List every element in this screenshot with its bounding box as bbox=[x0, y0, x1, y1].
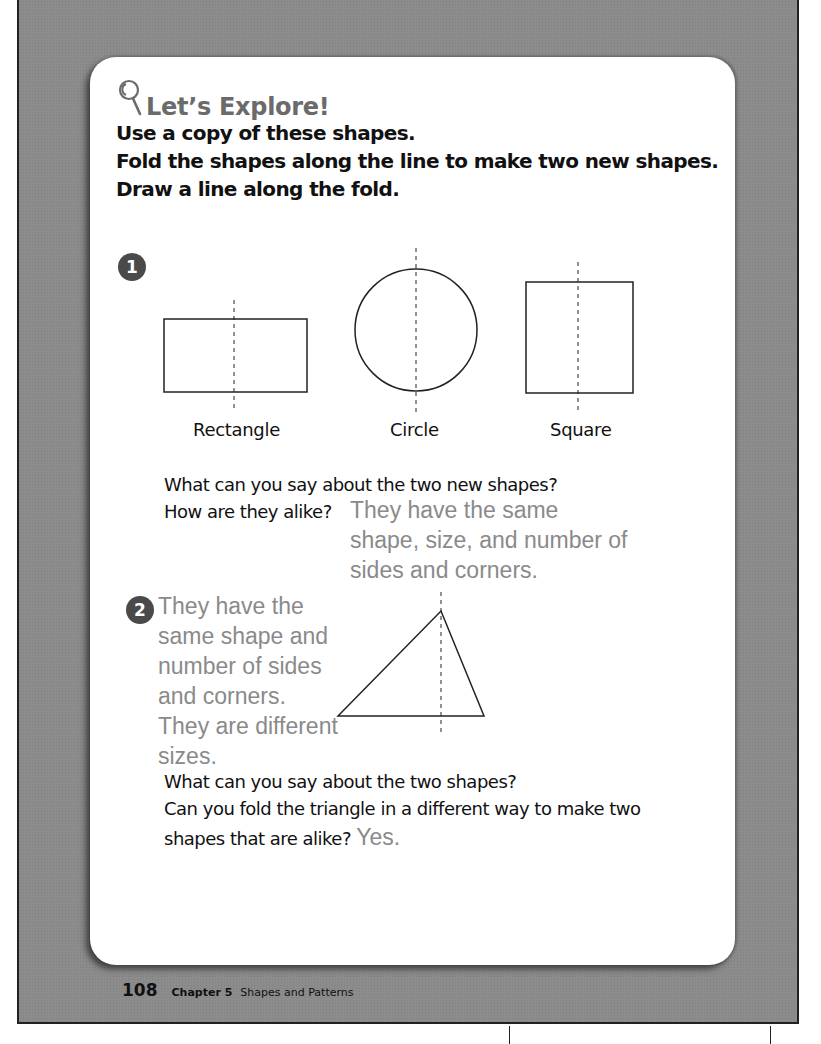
answer-line: number of sides bbox=[158, 651, 338, 681]
problem-1-question-2: How are they alike? bbox=[164, 498, 332, 525]
answer-line: sizes. bbox=[158, 741, 338, 771]
problem-2-question-1: What can you say about the two shapes? bbox=[164, 768, 516, 795]
trim-mark bbox=[509, 1026, 510, 1044]
circle-label: Circle bbox=[390, 419, 439, 440]
rectangle-label: Rectangle bbox=[193, 419, 280, 440]
answer-line: same shape and bbox=[158, 621, 338, 651]
problem-2-question-3-row: shapes that are alike? Yes. bbox=[164, 822, 400, 852]
trim-mark bbox=[770, 1026, 771, 1044]
chapter-label: Chapter 5 bbox=[172, 986, 233, 999]
chapter-title: Shapes and Patterns bbox=[240, 986, 353, 999]
square-shape bbox=[526, 262, 633, 412]
problem-2-badge: 2 bbox=[126, 596, 154, 624]
answer-line: and corners. bbox=[158, 681, 338, 711]
page-footer: 108 Chapter 5 Shapes and Patterns bbox=[122, 980, 354, 1000]
problem-2-question-3: shapes that are alike? bbox=[164, 828, 351, 849]
square-label: Square bbox=[550, 419, 612, 440]
answer-line: They have the same bbox=[350, 495, 627, 525]
problem-2-answer: They have the same shape and number of s… bbox=[158, 591, 338, 771]
answer-line: sides and corners. bbox=[350, 555, 627, 585]
problem-2-answer-yes: Yes. bbox=[356, 824, 400, 850]
problem-1-answer: They have the same shape, size, and numb… bbox=[350, 495, 627, 585]
answer-line: shape, size, and number of bbox=[350, 525, 627, 555]
page-number: 108 bbox=[122, 980, 158, 1000]
triangle-shape bbox=[338, 592, 484, 736]
circle-shape bbox=[355, 248, 477, 412]
problem-2-question-2: Can you fold the triangle in a different… bbox=[164, 795, 641, 822]
answer-line: They are different bbox=[158, 711, 338, 741]
rectangle-shape bbox=[164, 300, 307, 412]
problem-1-question-1: What can you say about the two new shape… bbox=[164, 471, 557, 498]
answer-line: They have the bbox=[158, 591, 338, 621]
